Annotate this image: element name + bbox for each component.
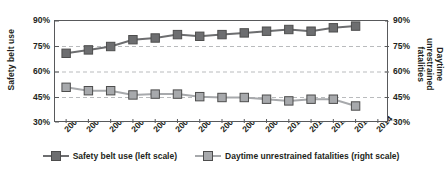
- data-point-marker: [84, 46, 92, 54]
- legend-marker: [51, 151, 61, 161]
- y-axis-right-tick-label: 60%: [393, 66, 427, 76]
- data-point-marker: [196, 32, 204, 40]
- y-axis-left-tick-label: 30%: [16, 117, 50, 127]
- right-axis-title-line1: Daytime unrestrained: [426, 38, 445, 91]
- chart-legend: Safety belt use (left scale)Daytime unre…: [30, 150, 412, 161]
- data-point-marker: [106, 87, 114, 95]
- data-point-marker: [84, 87, 92, 95]
- data-point-marker: [329, 95, 337, 103]
- plot-svg: [55, 21, 389, 123]
- legend-item[interactable]: Safety belt use (left scale): [43, 150, 177, 161]
- right-axis-title-line2: fatalities: [416, 47, 426, 83]
- data-point-marker: [307, 95, 315, 103]
- y-axis-right-tick-label: 30%: [393, 117, 427, 127]
- y-axis-right-tick-label: 45%: [393, 92, 427, 102]
- data-point-marker: [240, 93, 248, 101]
- left-axis-title: Safety belt use: [7, 21, 17, 99]
- data-point-marker: [218, 30, 226, 38]
- data-point-marker: [262, 27, 270, 35]
- y-axis-left-tick-label: 90%: [16, 15, 50, 25]
- data-point-marker: [262, 95, 270, 103]
- data-point-marker: [329, 24, 337, 32]
- legend-item[interactable]: Daytime unrestrained fatalities (right s…: [195, 150, 399, 161]
- plot-area: [54, 20, 388, 122]
- data-point-marker: [151, 34, 159, 42]
- legend-label: Safety belt use (left scale): [73, 151, 177, 161]
- y-axis-left-tick-label: 60%: [16, 66, 50, 76]
- data-point-marker: [351, 102, 359, 110]
- legend-swatch: [195, 150, 221, 161]
- legend-label: Daytime unrestrained fatalities (right s…: [225, 151, 399, 161]
- data-point-marker: [106, 42, 114, 50]
- data-point-marker: [240, 29, 248, 37]
- data-point-marker: [218, 93, 226, 101]
- legend-marker: [203, 151, 213, 161]
- data-point-marker: [129, 36, 137, 44]
- y-axis-left-tick-label: 75%: [16, 41, 50, 51]
- data-point-marker: [151, 90, 159, 98]
- data-point-marker: [196, 92, 204, 100]
- data-point-marker: [129, 91, 137, 99]
- data-point-marker: [62, 83, 70, 91]
- y-axis-right-tick-label: 90%: [393, 15, 427, 25]
- data-point-marker: [351, 22, 359, 30]
- data-point-marker: [173, 90, 181, 98]
- y-axis-left-tick-label: 45%: [16, 92, 50, 102]
- data-point-marker: [62, 49, 70, 57]
- data-point-marker: [285, 97, 293, 105]
- data-point-marker: [173, 30, 181, 38]
- data-point-marker: [307, 27, 315, 35]
- legend-swatch: [43, 150, 69, 161]
- y-axis-right-tick-label: 75%: [393, 41, 427, 51]
- data-point-marker: [285, 25, 293, 33]
